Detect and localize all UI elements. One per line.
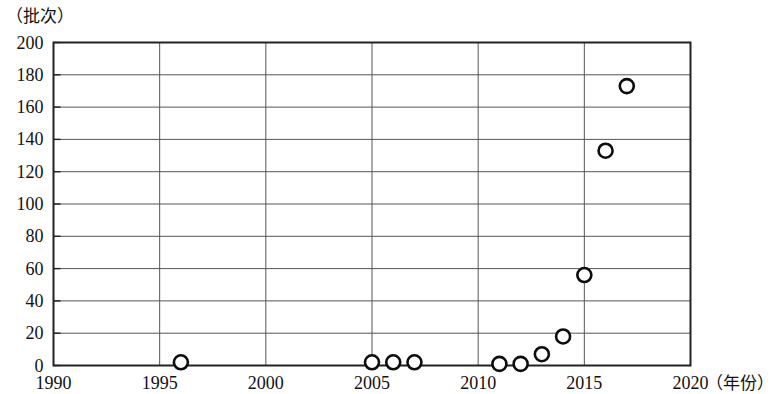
x-tick-label: 2010 <box>460 373 496 393</box>
data-point-marker <box>556 329 570 343</box>
y-tick-label: 200 <box>17 33 44 53</box>
data-point-marker <box>386 355 400 369</box>
data-point-marker <box>599 144 613 158</box>
data-point-marker <box>577 268 591 282</box>
data-point-marker <box>407 355 421 369</box>
x-tick-label: 2015 <box>566 373 602 393</box>
chart-canvas: （批次） 020406080100120140160180200 1990199… <box>0 0 775 394</box>
y-tick-label: 20 <box>26 323 44 343</box>
x-tick-label: 1990 <box>36 373 72 393</box>
scatter-chart: （批次） 020406080100120140160180200 1990199… <box>0 0 775 394</box>
y-axis-unit-label: （批次） <box>6 7 74 26</box>
x-axis-unit-label: （年份） <box>706 374 774 393</box>
y-tick-label: 60 <box>26 259 44 279</box>
x-tick-label: 2020 <box>673 373 709 393</box>
chart-background <box>0 0 775 394</box>
x-tick-label: 2000 <box>248 373 284 393</box>
data-point-marker <box>365 355 379 369</box>
y-tick-label: 160 <box>17 97 44 117</box>
y-tick-label: 80 <box>26 226 44 246</box>
y-tick-label: 180 <box>17 65 44 85</box>
y-tick-label: 40 <box>26 291 44 311</box>
y-tick-label: 120 <box>17 162 44 182</box>
data-point-marker <box>492 357 506 371</box>
y-tick-label: 100 <box>17 194 44 214</box>
data-point-marker <box>514 357 528 371</box>
data-point-marker <box>620 79 634 93</box>
x-tick-label: 1995 <box>142 373 178 393</box>
data-point-marker <box>174 355 188 369</box>
y-tick-label: 140 <box>17 129 44 149</box>
data-point-marker <box>535 347 549 361</box>
x-tick-label: 2005 <box>354 373 390 393</box>
